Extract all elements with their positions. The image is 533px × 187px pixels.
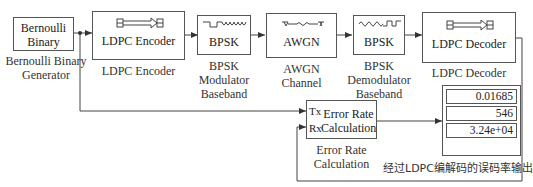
block-caption: Baseband: [344, 87, 414, 101]
block-caption: LDPC Encoder: [92, 64, 185, 78]
awgn-channel-block[interactable]: AWGN: [266, 13, 337, 58]
block-label: LDPC Decoder: [423, 37, 515, 51]
block-caption: Calculation: [306, 157, 377, 171]
display-block[interactable]: 0.01685 546 3.24e+04: [442, 85, 521, 156]
branch-junction: [78, 31, 82, 35]
error-count-value: 546: [446, 106, 517, 121]
rx-port-label: Rx: [309, 122, 322, 134]
tx-port-label: Tx: [309, 105, 321, 117]
block-caption: AWGN: [266, 62, 337, 76]
block-caption: BPSK: [190, 59, 258, 73]
block-caption: BPSK: [344, 59, 414, 73]
matrix-arrow-icon: [115, 17, 165, 29]
block-label: BPSK: [354, 35, 404, 49]
bpsk-modulator-block[interactable]: BPSK: [197, 15, 251, 55]
block-caption: Generator: [0, 68, 92, 82]
bernoulli-binary-block[interactable]: Bernoulli Binary: [13, 17, 74, 51]
ldpc-encoder-block[interactable]: LDPC Encoder: [92, 11, 185, 60]
bit-count-value: 3.24e+04: [446, 123, 517, 138]
block-caption: Demodulator: [344, 73, 414, 87]
matrix-arrow-icon: [445, 19, 495, 31]
block-caption: Modulator: [190, 73, 258, 87]
block-caption: Error Rate: [306, 143, 377, 157]
block-label: AWGN: [267, 35, 336, 49]
block-label: Bernoulli: [14, 21, 73, 35]
block-caption: Bernoulli Binary: [0, 54, 92, 68]
block-label: Calculation: [321, 121, 376, 135]
block-label: Binary: [14, 35, 73, 49]
display-caption: 经过LDPC编解码的误码率输出: [383, 159, 533, 175]
square-to-sine-wave-icon: [202, 19, 248, 29]
block-label: BPSK: [198, 35, 250, 49]
block-caption: LDPC Decoder: [422, 66, 516, 80]
block-caption: Baseband: [190, 87, 258, 101]
ber-value: 0.01685: [446, 89, 517, 104]
block-label: LDPC Encoder: [93, 34, 184, 48]
error-rate-calculation-block[interactable]: Tx Rx Error Rate Calculation: [306, 100, 377, 139]
bpsk-demodulator-block[interactable]: BPSK: [353, 15, 405, 55]
noise-channel-icon: [281, 19, 325, 29]
block-caption: Channel: [266, 76, 337, 90]
block-label: Error Rate: [321, 107, 376, 121]
ldpc-decoder-block[interactable]: LDPC Decoder: [422, 12, 516, 63]
sine-to-square-wave-icon: [358, 19, 402, 29]
